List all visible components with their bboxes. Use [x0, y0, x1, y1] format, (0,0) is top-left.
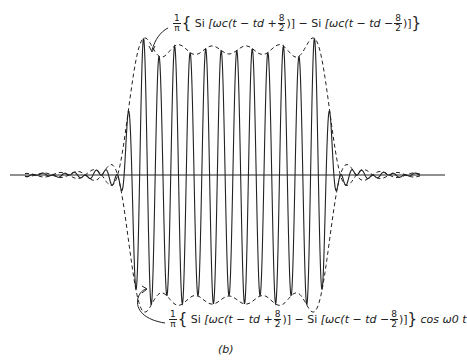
carrier-waveform — [25, 38, 420, 304]
bracket-close: )] — [286, 17, 295, 30]
cosine-term: cos ω0 t — [421, 313, 467, 326]
brace-close: } — [412, 14, 422, 32]
frac-den: 2 — [394, 24, 402, 33]
term-1: [ωc(t − td + — [208, 17, 276, 30]
si-function: Si — [191, 313, 201, 326]
signal-formula-label: 1π{ Si [ωc(t − td +82)] − Si [ωc(t − td … — [168, 310, 467, 329]
frac-den: 2 — [278, 24, 286, 33]
brace-close: } — [408, 310, 418, 328]
brace-open: { — [178, 310, 188, 328]
frac-den: 2 — [274, 320, 282, 329]
frac-den: π — [173, 24, 181, 33]
minus-si: − Si — [299, 17, 322, 30]
frac-den: π — [169, 320, 177, 329]
si-function: Si — [195, 17, 205, 30]
frac-den: 2 — [390, 320, 398, 329]
term-1: [ωc(t − td + — [204, 313, 272, 326]
envelope-formula-label: 1π{ Si [ωc(t − td +82)] − Si [ωc(t − td … — [172, 14, 421, 33]
modulated-carrier — [25, 38, 420, 304]
bracket-close: )] — [399, 313, 408, 326]
bracket-close: )] — [282, 313, 291, 326]
figure-caption: (b) — [218, 343, 234, 356]
minus-si: − Si — [295, 313, 318, 326]
bracket-close: )] — [403, 17, 412, 30]
brace-open: { — [182, 14, 192, 32]
bottom-label-arrow — [137, 289, 165, 323]
term-2: [ωc(t − td − — [321, 313, 389, 326]
lower-envelope — [25, 165, 420, 313]
term-2: [ωc(t − td − — [325, 17, 393, 30]
